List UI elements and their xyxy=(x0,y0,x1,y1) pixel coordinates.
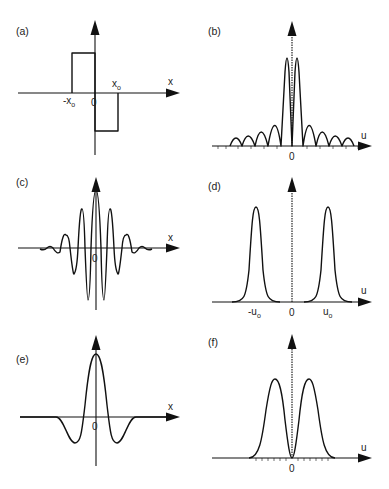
u-axis-arrow-icon xyxy=(358,142,372,151)
origin-label: 0 xyxy=(289,151,295,162)
x-axis-arrow-icon xyxy=(166,244,180,253)
y-axis-arrow-icon xyxy=(92,335,101,350)
x-axis-arrow-icon xyxy=(166,89,180,98)
marker-u0: uo xyxy=(323,306,333,319)
y-axis-arrow-icon xyxy=(91,20,100,35)
panel-label-c: (c) xyxy=(16,176,28,188)
marker-neg-u0: -uo xyxy=(248,306,261,319)
marker-x0: xo xyxy=(112,78,121,91)
u-axis-arrow-icon xyxy=(358,298,372,307)
panel-label-d: (d) xyxy=(208,180,221,192)
positive-pulse xyxy=(72,53,95,93)
origin-label: 0 xyxy=(92,253,98,264)
negative-pulse xyxy=(95,93,118,131)
origin-label: 0 xyxy=(91,97,97,108)
panel-a: (a) x 0 -xo xo xyxy=(16,20,180,155)
axis-label-u: u xyxy=(361,442,367,453)
panel-label-f: (f) xyxy=(208,336,218,348)
panel-label-b: (b) xyxy=(208,25,221,37)
panel-label-e: (e) xyxy=(16,353,29,365)
panel-e: (e) x 0 xyxy=(16,335,180,466)
y-axis-arrow-icon xyxy=(288,21,297,36)
right-peak-curve xyxy=(304,207,352,302)
y-axis-arrow-icon xyxy=(288,177,297,192)
panel-f: (f) u 0 xyxy=(208,334,372,474)
panel-c: (c) x 0 xyxy=(16,176,180,310)
origin-label: 0 xyxy=(92,421,98,432)
axis-label-x: x xyxy=(168,232,173,243)
spectrum-curve xyxy=(249,379,335,458)
axis-label-x: x xyxy=(168,401,173,412)
panel-label-a: (a) xyxy=(16,25,29,37)
figure: (a) x 0 -xo xo (b) u 0 (c) xyxy=(0,0,389,489)
origin-label: 0 xyxy=(289,307,295,318)
axis-label-u: u xyxy=(361,285,367,296)
y-axis-arrow-icon xyxy=(288,334,297,349)
panel-d: (d) u 0 -uo uo xyxy=(208,177,372,319)
axis-label-u: u xyxy=(361,130,367,141)
left-peak-curve xyxy=(232,207,280,302)
origin-label: 0 xyxy=(289,463,295,474)
panel-b: (b) u 0 xyxy=(208,21,372,162)
u-axis-arrow-icon xyxy=(358,454,372,463)
axis-label-x: x xyxy=(168,76,173,87)
marker-neg-x0: -xo xyxy=(63,95,75,108)
